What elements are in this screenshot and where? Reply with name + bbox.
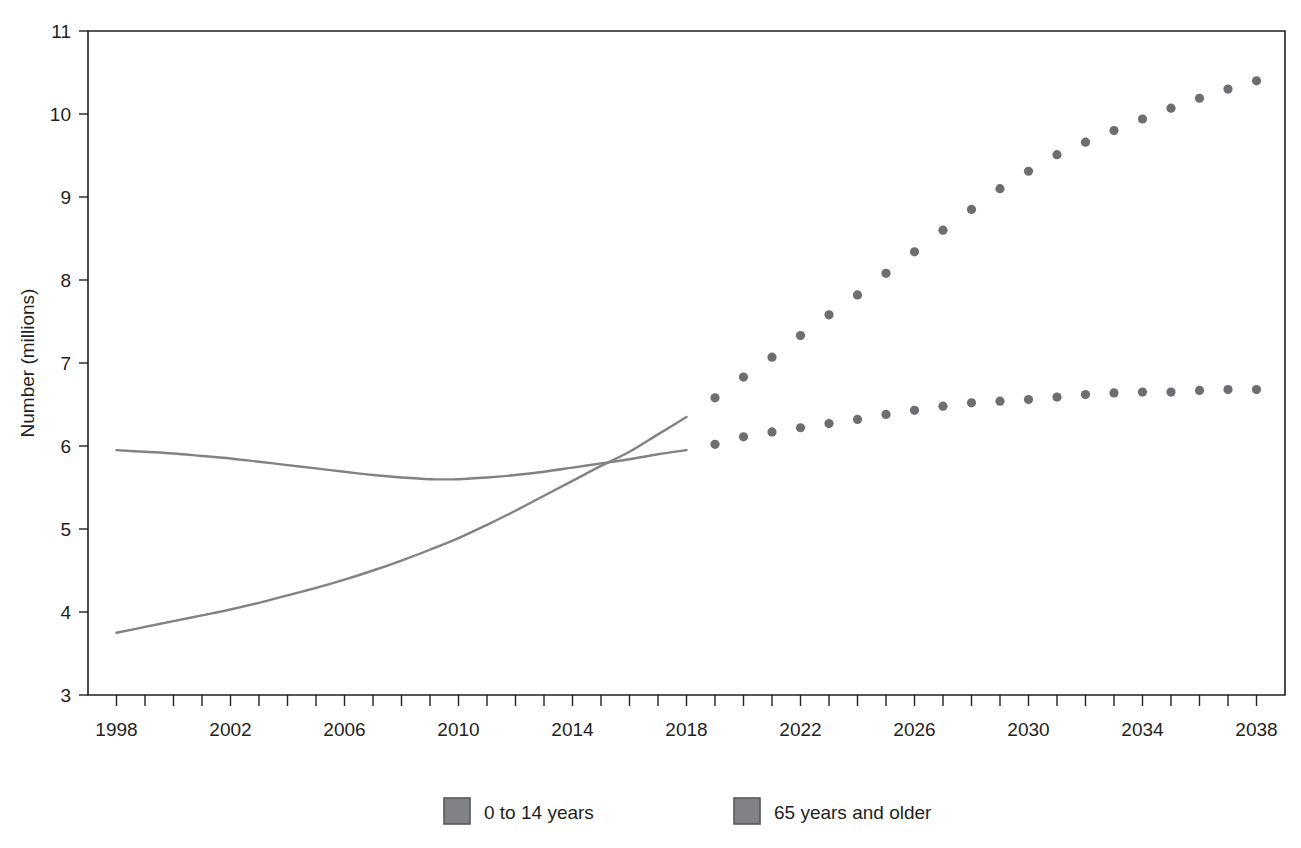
x-tick-label: 2002: [209, 719, 251, 740]
legend-label-65-years-and-older: 65 years and older: [774, 802, 932, 823]
series-point: [767, 353, 776, 362]
x-tick-label: 2038: [1235, 719, 1277, 740]
series-point: [995, 397, 1004, 406]
series-point: [1081, 138, 1090, 147]
series-point: [710, 440, 719, 449]
y-axis-title: Number (millions): [17, 289, 38, 438]
series-point: [910, 406, 919, 415]
y-tick-label: 10: [50, 104, 71, 125]
series-0-to-14-years-projection: [710, 385, 1261, 449]
series-point: [824, 419, 833, 428]
series-point: [967, 398, 976, 407]
series-point: [938, 226, 947, 235]
data-series-layer: [117, 76, 1262, 633]
series-point: [1195, 94, 1204, 103]
series-point: [1223, 385, 1232, 394]
y-tick-label: 9: [60, 187, 71, 208]
y-tick-label: 11: [51, 21, 71, 42]
series-point: [881, 269, 890, 278]
series-point: [1166, 387, 1175, 396]
series-point: [739, 432, 748, 441]
y-axis-ticks: 34567891011: [50, 21, 88, 706]
series-65-years-and-older-historical: [117, 417, 687, 633]
x-tick-label: 2006: [323, 719, 365, 740]
series-65-years-and-older-projection: [710, 76, 1261, 402]
series-point: [1252, 385, 1261, 394]
series-point: [1052, 392, 1061, 401]
series-point: [1109, 388, 1118, 397]
x-tick-label: 2018: [665, 719, 707, 740]
x-tick-label: 2030: [1007, 719, 1049, 740]
series-point: [881, 410, 890, 419]
x-tick-label: 1998: [95, 719, 137, 740]
plot-frame: [88, 31, 1285, 695]
x-tick-label: 2026: [893, 719, 935, 740]
series-point: [1081, 390, 1090, 399]
series-point: [1195, 386, 1204, 395]
series-point: [1024, 395, 1033, 404]
series-point: [796, 331, 805, 340]
series-point: [1223, 85, 1232, 94]
y-tick-label: 3: [60, 685, 71, 706]
x-axis-tick-labels: 1998200220062010201420182022202620302034…: [95, 719, 1277, 740]
y-tick-label: 8: [60, 270, 71, 291]
series-point: [710, 393, 719, 402]
x-tick-label: 2014: [551, 719, 594, 740]
series-point: [824, 310, 833, 319]
series-point: [1138, 114, 1147, 123]
series-point: [853, 415, 862, 424]
series-point: [767, 427, 776, 436]
y-tick-label: 4: [60, 602, 71, 623]
series-point: [796, 423, 805, 432]
series-point: [1109, 126, 1118, 135]
x-axis-ticks: [117, 695, 1257, 706]
series-point: [938, 402, 947, 411]
x-tick-label: 2010: [437, 719, 479, 740]
y-tick-label: 6: [60, 436, 71, 457]
series-point: [739, 373, 748, 382]
chart-figure: 34567891011 1998200220062010201420182022…: [0, 0, 1301, 848]
legend-swatch-0-to-14-years: [444, 798, 470, 824]
series-point: [1138, 387, 1147, 396]
series-point: [1052, 150, 1061, 159]
series-point: [967, 205, 976, 214]
series-point: [910, 247, 919, 256]
series-point: [853, 290, 862, 299]
series-point: [1252, 76, 1261, 85]
chart-legend: 0 to 14 years 65 years and older: [444, 798, 932, 824]
series-point: [1166, 104, 1175, 113]
series-line: [117, 417, 687, 633]
x-tick-label: 2034: [1121, 719, 1164, 740]
chart-svg: 34567891011 1998200220062010201420182022…: [0, 0, 1301, 848]
plot-axes: [88, 31, 1285, 695]
x-tick-label: 2022: [779, 719, 821, 740]
series-point: [1024, 167, 1033, 176]
series-point: [995, 184, 1004, 193]
legend-label-0-to-14-years: 0 to 14 years: [484, 802, 594, 823]
y-tick-label: 7: [60, 353, 71, 374]
y-tick-label: 5: [60, 519, 71, 540]
legend-swatch-65-years-and-older: [734, 798, 760, 824]
